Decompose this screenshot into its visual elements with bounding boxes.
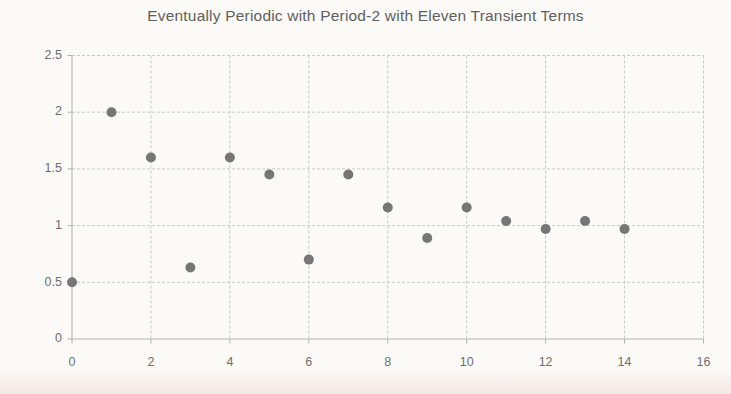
x-tick-label: 2 — [147, 355, 154, 369]
data-point — [383, 202, 393, 212]
tick-marks — [68, 56, 704, 344]
data-point — [422, 233, 432, 243]
data-point — [304, 255, 314, 265]
x-tick-label: 16 — [697, 355, 711, 369]
data-point — [67, 277, 77, 287]
data-point — [620, 224, 630, 234]
chart-figure: Eventually Periodic with Period-2 with E… — [0, 0, 731, 394]
x-tick-label: 8 — [384, 355, 391, 369]
y-tick-label: 0.5 — [45, 275, 62, 289]
tick-labels: 024681012141600.511.522.5 — [45, 48, 711, 370]
data-point — [106, 107, 116, 117]
y-tick-label: 2.5 — [45, 48, 62, 62]
x-tick-label: 14 — [618, 355, 632, 369]
x-tick-label: 10 — [460, 355, 474, 369]
x-tick-label: 12 — [539, 355, 553, 369]
y-tick-label: 1 — [55, 218, 62, 232]
x-tick-label: 0 — [69, 355, 76, 369]
data-point — [580, 216, 590, 226]
data-point — [225, 153, 235, 163]
data-point — [462, 202, 472, 212]
data-point — [541, 224, 551, 234]
data-point — [501, 216, 511, 226]
data-point — [343, 170, 353, 180]
y-tick-label: 2 — [55, 104, 62, 118]
data-point — [264, 170, 274, 180]
gridlines — [72, 56, 704, 340]
y-tick-label: 1.5 — [45, 161, 62, 175]
y-tick-label: 0 — [55, 331, 62, 345]
x-tick-label: 4 — [226, 355, 233, 369]
data-point — [146, 153, 156, 163]
data-point — [185, 263, 195, 273]
scatter-plot: 024681012141600.511.522.5 — [0, 0, 731, 394]
x-tick-label: 6 — [305, 355, 312, 369]
